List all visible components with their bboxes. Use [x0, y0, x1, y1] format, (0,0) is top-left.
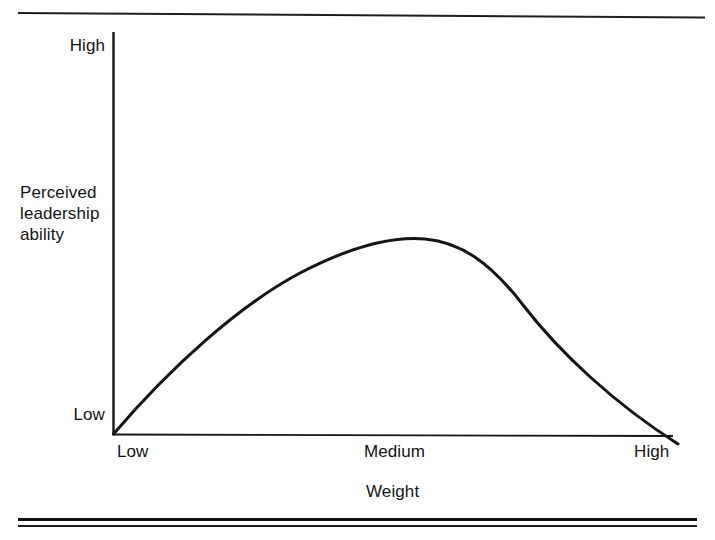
x-axis-title: Weight — [366, 481, 419, 502]
y-axis-title: Perceived leadership ability — [20, 182, 112, 245]
y-axis-tick-low: Low — [74, 404, 106, 425]
figure-container: High Low Perceived leadership ability Lo… — [0, 0, 715, 540]
y-axis-title-line-2: leadership — [20, 203, 112, 224]
chart-plot-area — [0, 0, 715, 540]
y-axis-tick-high: High — [70, 35, 105, 56]
x-axis-tick-medium: Medium — [364, 441, 425, 462]
x-axis-line — [113, 435, 674, 437]
y-axis-title-line-3: ability — [20, 224, 112, 245]
y-axis-title-line-1: Perceived — [20, 182, 112, 203]
x-axis-tick-low: Low — [117, 441, 149, 462]
bottom-horizontal-rule-lower — [18, 525, 697, 527]
bottom-horizontal-rule-upper — [18, 518, 697, 521]
x-axis-tick-high: High — [634, 441, 669, 462]
data-curve-inverted-u — [114, 239, 679, 444]
